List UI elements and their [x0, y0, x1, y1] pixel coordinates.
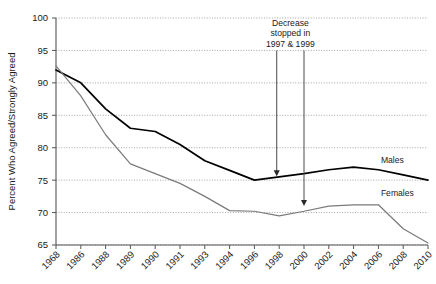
series-label-females: Females: [381, 188, 414, 198]
y-tick-label: 75: [37, 175, 48, 186]
x-tick-label: 2002: [312, 249, 335, 272]
x-axis-group: 1968198619881989199019911993199419961998…: [39, 245, 434, 271]
x-tick-label: 1989: [114, 249, 137, 272]
x-tick-label: 1990: [138, 249, 161, 272]
series-label-males: Males: [381, 155, 404, 165]
y-tick-label: 70: [37, 207, 48, 218]
x-tick-label: 1988: [89, 249, 112, 272]
x-tick-label: 2006: [362, 249, 385, 272]
x-tick-label: 2000: [287, 249, 310, 272]
y-axis-group: 10095908580757065: [32, 12, 56, 250]
data-series-group: [56, 66, 428, 243]
x-tick-label: 1996: [238, 249, 261, 272]
annotation-line: 1997 & 1999: [266, 39, 315, 49]
y-axis-title: Percent Who Agreed/Strongly Agreed: [6, 53, 17, 211]
series-line-males: [56, 70, 428, 180]
clipped-header-text: [0, 0, 436, 9]
y-tick-label: 90: [37, 77, 48, 88]
series-line-females: [56, 66, 428, 243]
y-tick-label: 85: [37, 110, 48, 121]
y-tick-label: 65: [37, 239, 48, 250]
annotation-line: stopped in: [271, 28, 311, 38]
annotation-arrow-head: [301, 200, 307, 206]
x-tick-label: 1994: [213, 249, 236, 272]
x-tick-label: 1993: [188, 249, 211, 272]
y-tick-label: 100: [32, 12, 48, 23]
x-tick-label: 1968: [39, 249, 62, 272]
x-tick-label: 1998: [262, 249, 285, 272]
x-tick-label: 2008: [386, 249, 409, 272]
y-tick-label: 95: [37, 45, 48, 56]
line-chart-svg: 10095908580757065 1968198619881989199019…: [0, 0, 436, 284]
x-tick-label: 1991: [163, 249, 186, 272]
y-axis-title-group: Percent Who Agreed/Strongly Agreed: [6, 53, 17, 211]
x-tick-label: 2010: [411, 249, 434, 272]
annotation-arrow-head: [274, 170, 280, 176]
y-tick-label: 80: [37, 142, 48, 153]
chart-container: 10095908580757065 1968198619881989199019…: [0, 0, 436, 284]
x-tick-label: 2004: [337, 249, 360, 272]
annotation-line: Decrease: [272, 18, 309, 28]
x-tick-label: 1986: [64, 249, 87, 272]
